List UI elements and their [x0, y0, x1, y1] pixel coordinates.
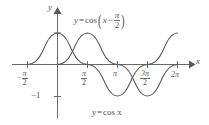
x-axis-arrow-icon [189, 61, 196, 69]
argument-operator: − [107, 15, 114, 25]
fraction-denominator: 2 [81, 79, 87, 87]
y-axis-label: y [48, 3, 52, 12]
close-paren: ) [121, 16, 125, 26]
fraction-three-half-pi: 3π2 [140, 70, 150, 87]
fraction-denominator: 2 [114, 21, 121, 30]
fraction-denominator: 2 [140, 79, 150, 87]
fraction-half-pi: π2 [81, 70, 87, 87]
equation-rhs: cos x [103, 107, 122, 117]
cosine-phase-shift-figure: y x −π2 π2 π 3π2 2π −1 y=cos(x−π2) y=cos… [0, 0, 209, 125]
fraction-denominator: 2 [22, 79, 28, 87]
fraction-half-pi-argument: π2 [114, 11, 121, 30]
equation-label-shifted-cosine: y=cos(x−π2) [74, 11, 126, 30]
x-tick-label-neg-half-pi: −π2 [17, 70, 28, 87]
y-axis-arrow-icon [54, 7, 62, 14]
x-tick-label-half-pi: π2 [81, 70, 87, 87]
x-axis-label: x [196, 57, 200, 66]
x-tick-label-two-pi: 2π [171, 71, 179, 79]
x-tick-label-pi: π [113, 70, 117, 78]
fraction-neg-half-pi: π2 [22, 70, 28, 87]
x-tick-label-three-half-pi: 3π2 [140, 70, 150, 87]
cos-function-name: cos [85, 15, 97, 25]
open-paren: ( [98, 16, 102, 26]
y-tick-label-neg-one: −1 [31, 91, 41, 100]
equation-label-base-cosine: y=cos x [92, 108, 122, 117]
